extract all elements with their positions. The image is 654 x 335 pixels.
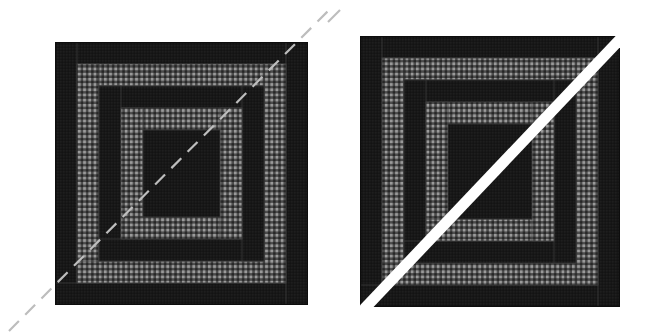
quilt-strip [404, 80, 576, 102]
quilt-strip [360, 36, 620, 58]
quilt-strip [576, 58, 598, 285]
quilt-strip [143, 130, 220, 217]
quilt-strip [382, 58, 598, 80]
quilt-strip [220, 108, 242, 239]
quilt-strip [598, 36, 620, 307]
quilt-strip [382, 58, 404, 285]
quilt-strip [382, 263, 598, 285]
quilt-strip [360, 285, 620, 307]
quilt-strip [55, 283, 308, 305]
quilt-strip [99, 86, 264, 108]
quilt-strip [55, 42, 308, 64]
quilt-strip [360, 36, 382, 307]
quilt-strip [77, 64, 99, 283]
quilt-strip [99, 86, 121, 261]
quilt-strip [404, 80, 426, 263]
log-cabin-block-left [55, 42, 308, 305]
diagram-canvas [0, 0, 654, 335]
quilt-strip [77, 64, 286, 86]
quilt-strip [242, 86, 264, 261]
quilt-strip [286, 42, 308, 305]
quilt-strip [99, 239, 264, 261]
quilt-diagram [0, 0, 654, 335]
quilt-strip [264, 64, 286, 283]
quilt-strip [77, 261, 286, 283]
